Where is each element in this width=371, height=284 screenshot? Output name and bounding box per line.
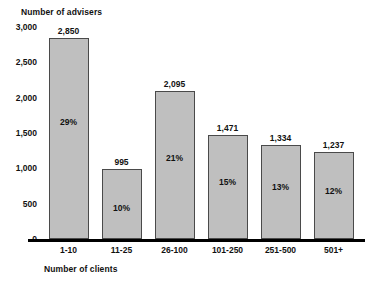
bar-chart: Number of advisers 05001,0001,5002,0002,… xyxy=(0,0,371,284)
x-axis-tick-label: 1-10 xyxy=(42,245,95,255)
bar-value-label: 2,095 xyxy=(155,79,195,89)
y-axis-tick-label: 1,000 xyxy=(16,163,37,173)
bar-value-label: 995 xyxy=(102,157,142,167)
y-axis-tick-label: 2,500 xyxy=(16,57,37,67)
bar xyxy=(49,38,89,239)
bar-percent-label: 15% xyxy=(208,177,248,187)
bar-group: 1,47115% xyxy=(208,27,248,239)
bar-group: 1,23712% xyxy=(314,27,354,239)
x-axis-tick-label: 101-250 xyxy=(201,245,254,255)
bar-value-label: 1,334 xyxy=(261,133,301,143)
bar-percent-label: 29% xyxy=(49,117,89,127)
x-axis-tick-label: 251-500 xyxy=(254,245,307,255)
bar-group: 2,09521% xyxy=(155,27,195,239)
x-axis-tick-label: 11-25 xyxy=(95,245,148,255)
y-axis-title: Number of advisers xyxy=(21,7,102,17)
bar-value-label: 2,850 xyxy=(49,26,89,36)
bar-value-label: 1,471 xyxy=(208,123,248,133)
bar-value-label: 1,237 xyxy=(314,140,354,150)
x-axis-tick-label: 501+ xyxy=(307,245,360,255)
bar-percent-label: 10% xyxy=(102,203,142,213)
bar-group: 2,85029% xyxy=(49,27,89,239)
x-axis-title: Number of clients xyxy=(44,264,118,274)
bar-percent-label: 21% xyxy=(155,153,195,163)
x-axis-line xyxy=(28,239,365,242)
y-axis-tick-label: 3,000 xyxy=(16,22,37,32)
y-axis-tick-label: 1,500 xyxy=(16,128,37,138)
y-axis-tick-label: 500 xyxy=(23,199,37,209)
bar-group: 99510% xyxy=(102,27,142,239)
bar-series: 2,85029%99510%2,09521%1,47115%1,33413%1,… xyxy=(42,27,360,239)
bar-percent-label: 12% xyxy=(314,186,354,196)
bar xyxy=(155,91,195,239)
plot-area: 05001,0001,5002,0002,5003,000 2,85029%99… xyxy=(42,27,360,239)
bar xyxy=(208,135,248,239)
y-axis-tick-label: 2,000 xyxy=(16,93,37,103)
bar-percent-label: 13% xyxy=(261,182,301,192)
bar-group: 1,33413% xyxy=(261,27,301,239)
x-axis-tick-label: 26-100 xyxy=(148,245,201,255)
